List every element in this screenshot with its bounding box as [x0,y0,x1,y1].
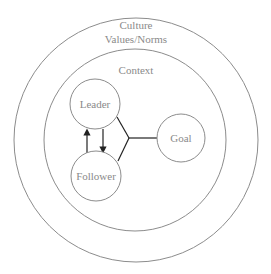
follower-label: Follower [66,170,126,182]
culture-ring [14,18,258,262]
leader-to-junction-line [117,117,129,138]
leader-label: Leader [65,98,125,110]
goal-label: Goal [151,132,211,144]
culture-label: Culture [86,19,186,31]
context-label: Context [86,64,186,76]
values-norms-label: Values/Norms [86,33,186,45]
follower-to-junction-line [118,138,129,161]
